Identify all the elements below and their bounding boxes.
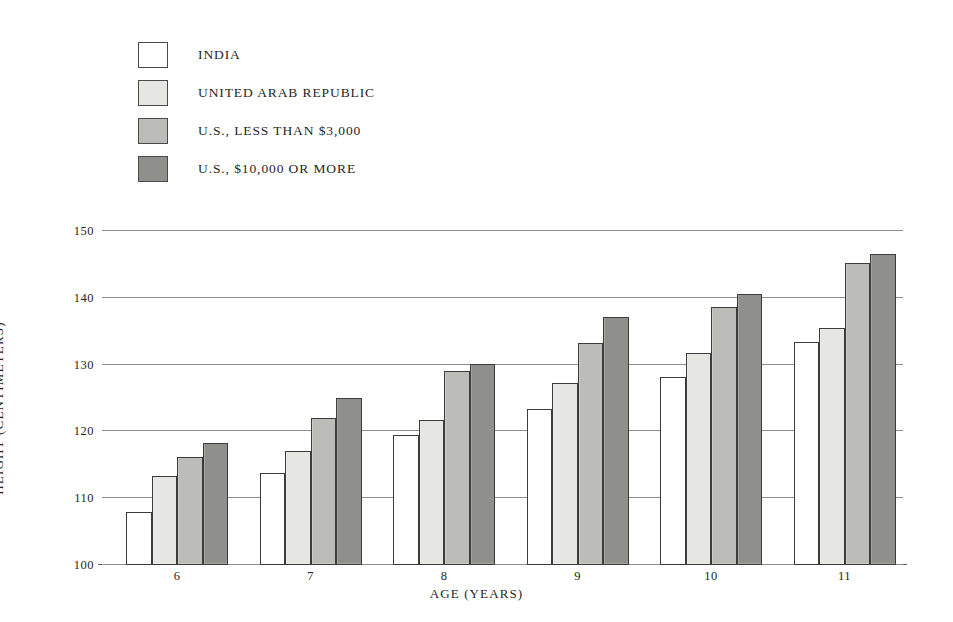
legend-item-label: INDIA bbox=[198, 47, 241, 63]
bar bbox=[845, 263, 871, 565]
bar bbox=[152, 476, 178, 566]
y-axis-tick-label: 130 bbox=[58, 357, 94, 372]
y-axis-tick-label: 100 bbox=[58, 558, 94, 573]
bar bbox=[336, 398, 362, 565]
bar bbox=[393, 435, 419, 565]
chart-figure: INDIAUNITED ARAB REPUBLICU.S., LESS THAN… bbox=[0, 0, 953, 622]
x-axis-tick-label: 10 bbox=[660, 569, 762, 584]
bar bbox=[470, 364, 496, 565]
y-axis-title: HEIGHT (CENTIMETERS) bbox=[0, 58, 7, 622]
x-axis-tick-label: 11 bbox=[794, 569, 896, 584]
legend-item: U.S., LESS THAN $3,000 bbox=[138, 112, 375, 150]
bar-group: 9 bbox=[527, 231, 629, 565]
bar-group: 7 bbox=[260, 231, 362, 565]
plot-area: 10011012013014015067891011 bbox=[102, 231, 903, 565]
legend-item: UNITED ARAB REPUBLIC bbox=[138, 74, 375, 112]
bar bbox=[552, 383, 578, 565]
bar bbox=[737, 294, 763, 565]
bar bbox=[177, 457, 203, 565]
bar bbox=[578, 343, 604, 565]
bar bbox=[419, 420, 445, 565]
bar-group: 11 bbox=[794, 231, 896, 565]
legend-item: U.S., $10,000 OR MORE bbox=[138, 150, 375, 188]
bar-group: 10 bbox=[660, 231, 762, 565]
bar bbox=[794, 342, 820, 565]
legend-swatch-icon bbox=[138, 42, 168, 68]
legend-swatch-icon bbox=[138, 80, 168, 106]
bar bbox=[444, 371, 470, 565]
legend-item-label: U.S., $10,000 OR MORE bbox=[198, 161, 356, 177]
legend-swatch-icon bbox=[138, 118, 168, 144]
y-axis-tick-label: 140 bbox=[58, 290, 94, 305]
chart-legend: INDIAUNITED ARAB REPUBLICU.S., LESS THAN… bbox=[138, 36, 375, 188]
bar-group: 6 bbox=[126, 231, 228, 565]
bar bbox=[870, 254, 896, 565]
bar-group: 8 bbox=[393, 231, 495, 565]
bar bbox=[126, 512, 152, 565]
legend-item-label: UNITED ARAB REPUBLIC bbox=[198, 85, 375, 101]
y-axis-tick-label: 120 bbox=[58, 424, 94, 439]
bar bbox=[686, 353, 712, 565]
y-axis-tick-label: 150 bbox=[58, 224, 94, 239]
bar bbox=[527, 409, 553, 565]
x-axis-title: AGE (YEARS) bbox=[0, 586, 953, 602]
y-axis-tick-label: 110 bbox=[58, 491, 94, 506]
bar bbox=[260, 473, 286, 565]
bar bbox=[311, 418, 337, 565]
bar bbox=[660, 377, 686, 565]
x-axis-tick-label: 6 bbox=[126, 569, 228, 584]
bar bbox=[285, 451, 311, 565]
bar bbox=[819, 328, 845, 565]
bar bbox=[603, 317, 629, 565]
bar bbox=[711, 307, 737, 565]
x-axis-tick-label: 7 bbox=[260, 569, 362, 584]
x-axis-tick-label: 8 bbox=[393, 569, 495, 584]
bar bbox=[203, 443, 229, 565]
legend-item-label: U.S., LESS THAN $3,000 bbox=[198, 123, 361, 139]
x-axis-tick-label: 9 bbox=[527, 569, 629, 584]
legend-item: INDIA bbox=[138, 36, 375, 74]
legend-swatch-icon bbox=[138, 156, 168, 182]
